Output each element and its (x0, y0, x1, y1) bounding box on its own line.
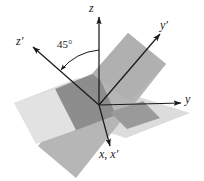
x-axis-label: x, x′ (99, 148, 118, 160)
coordinate-axes-figure: z z′ y y′ x, x′ 45° (0, 0, 204, 181)
y-axis-label: y (185, 93, 190, 105)
y-prime-axis-label: y′ (160, 19, 168, 31)
angle-label: 45° (57, 39, 72, 50)
angle-arc (61, 50, 99, 70)
z-prime-axis-label: z′ (16, 35, 23, 47)
z-axis-label: z (89, 2, 94, 14)
